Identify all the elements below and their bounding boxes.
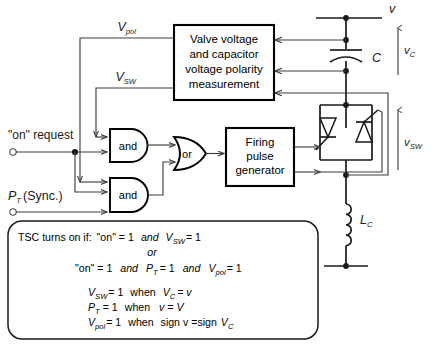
measurement-block-line4: measurement (189, 78, 260, 90)
measurement-block-line2: and capacitor (189, 48, 258, 60)
capacitor-label: C (372, 51, 382, 65)
measurement-block-line1: Valve voltage (190, 33, 258, 45)
firing-block-line3: generator (235, 164, 284, 176)
inductor-coil (346, 204, 351, 246)
vpol-label: Vpol (118, 20, 137, 36)
sync-terminal[interactable] (10, 209, 16, 215)
thyristor-left-gate-lead (316, 137, 328, 150)
inductor-label: LC (360, 213, 373, 229)
measurement-block-line3: voltage polarity (185, 63, 263, 75)
logic-line-2: or (147, 246, 157, 258)
firing-block-line1: Firing (246, 136, 275, 148)
vsw-label: VSW (115, 70, 136, 86)
diagram-canvas: v C LC vC vSW Valve (0, 0, 433, 352)
and-gate-bottom-label: and (119, 189, 137, 201)
and-bottom-output-wire (148, 162, 175, 195)
ground-node (343, 263, 349, 269)
thyristor-right-body (356, 122, 372, 142)
thyristor-right-gate-lead (364, 110, 378, 122)
on-request-label: "on" request (8, 128, 74, 142)
vsw-arrow-label: vSW (404, 136, 423, 151)
thyristor-left-body (320, 118, 336, 137)
and-gate-top-label: and (119, 140, 137, 152)
firing-block-line2: pulse (246, 150, 274, 162)
or-gate-label: or (182, 148, 192, 160)
sync-input-label: PT(Sync.) (8, 189, 63, 205)
on-request-terminal[interactable] (10, 149, 16, 155)
bus-voltage-label: v (389, 2, 396, 16)
vc-label: vC (404, 44, 416, 59)
